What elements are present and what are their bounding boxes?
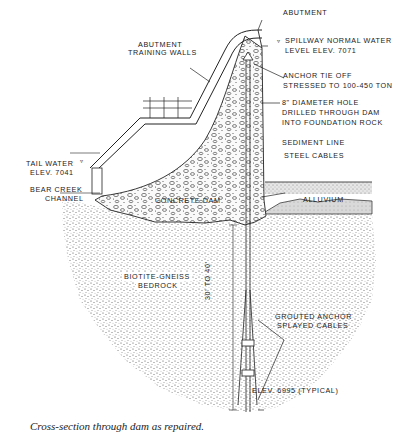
diagram-canvas: ▿ ▿ (0, 0, 414, 442)
label-depth-range: 30' TO 40' (203, 262, 212, 300)
label-training-walls-line2: TRAINING WALLS (128, 48, 197, 57)
label-concrete-dam: CONCRETE DAM (155, 196, 221, 205)
label-hole-line3: INTO FOUNDATION ROCK (282, 118, 383, 127)
label-bear-creek-line1: BEAR CREEK (30, 185, 82, 194)
label-grouted-line2: SPLAYED CABLES (277, 321, 348, 330)
label-bear-creek-line2: CHANNEL (45, 194, 84, 203)
label-anchor-tie-line2: STRESSED TO 100-450 TON (283, 81, 393, 90)
dam-cross-section-figure: ▿ ▿ ABUTMENT SPILLWAY NORMAL WATER LEVEL… (0, 0, 414, 442)
label-alluvium: ALLUVIUM (303, 195, 344, 204)
label-tail-water-line2: ELEV. 7041 (30, 168, 74, 177)
label-elev-bottom: ELEV. 6995 (TYPICAL) (252, 386, 338, 395)
label-bedrock-line2: BEDROCK (136, 281, 180, 290)
svg-text:▿: ▿ (277, 38, 280, 44)
sediment-region (265, 182, 372, 194)
label-spillway-line2: LEVEL ELEV. 7071 (285, 46, 356, 55)
figure-caption: Cross-section through dam as repaired. (30, 420, 204, 432)
label-steel-cables: STEEL CABLES (284, 151, 344, 160)
label-abutment: ABUTMENT (283, 8, 327, 17)
label-grouted-line1: GROUTED ANCHOR (275, 312, 352, 321)
label-tail-water-line1: TAIL WATER (26, 159, 74, 168)
svg-text:▿: ▿ (80, 158, 83, 164)
label-hole-line1: 8" DIAMETER HOLE (282, 98, 359, 107)
label-bedrock-line1: BIOTITE-GNEISS (122, 272, 192, 281)
railing (143, 97, 192, 118)
label-hole-line2: DRILLED THROUGH DAM (282, 108, 380, 117)
label-anchor-tie-line1: ANCHOR TIE OFF (283, 71, 352, 80)
bedrock-region (62, 198, 376, 412)
label-spillway-line1: SPILLWAY NORMAL WATER (285, 36, 392, 45)
label-sediment-line: SEDIMENT LINE (282, 138, 345, 147)
